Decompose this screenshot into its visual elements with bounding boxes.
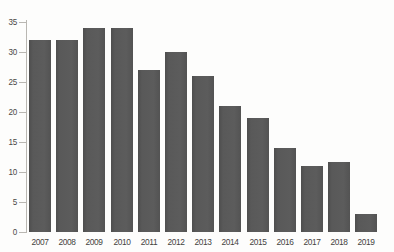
- x-axis-tick-label: 2017: [302, 236, 321, 247]
- x-axis-tick-label: 2013: [194, 236, 213, 247]
- x-axis-tick-label: 2011: [139, 236, 158, 247]
- x-axis-tick-label: 2019: [357, 236, 376, 247]
- bar-chart: 05101520253035 2007200820092010201120122…: [0, 0, 394, 252]
- x-axis-tick-label: 2018: [330, 236, 349, 247]
- x-axis-tick-label: 2007: [30, 236, 49, 247]
- x-axis-tick-label: 2016: [275, 236, 294, 247]
- x-axis-tick-label: 2014: [221, 236, 240, 247]
- x-axis-tick-label: 2012: [166, 236, 185, 247]
- x-axis-tick-label: 2015: [248, 236, 267, 247]
- x-axis-tick-label: 2009: [85, 236, 104, 247]
- x-axis-tick-label: 2008: [58, 236, 77, 247]
- x-axis-labels: 2007200820092010201120122013201420152016…: [0, 0, 394, 252]
- x-axis-tick-label: 2010: [112, 236, 131, 247]
